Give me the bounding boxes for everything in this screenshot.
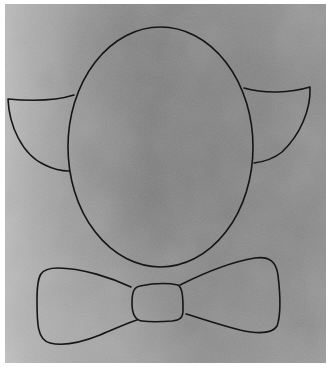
photograph: Black line drawing on gray paper: oval f… [0, 0, 333, 368]
paper [5, 4, 326, 363]
